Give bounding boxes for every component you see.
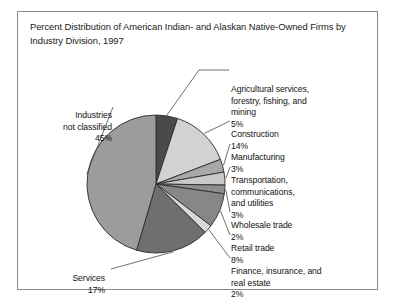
callout-unclassified-name: Industries not classified <box>63 110 112 131</box>
callout-wholesale-name: Wholesale trade <box>231 220 292 230</box>
callout-manufacturing-name: Manufacturing <box>231 152 285 162</box>
callout-retail-name: Retail trade <box>231 243 274 253</box>
callout-services-name: Services <box>72 273 105 283</box>
leader-retail <box>221 211 230 235</box>
leader-manufacturing <box>223 144 230 165</box>
callout-finance-value: 2% <box>231 289 379 300</box>
leader-services <box>111 252 174 269</box>
callout-finance-name: Finance, insurance, and real estate <box>231 266 322 287</box>
leader-wholesale <box>226 190 230 212</box>
callout-construction-name: Construction <box>231 129 279 139</box>
callout-finance: Finance, insurance, and real estate 2% <box>231 255 379 305</box>
leader-construction <box>204 121 230 133</box>
callout-agricultural-name: Agricultural services, forestry, fishing… <box>231 84 309 117</box>
leader-finance <box>209 230 230 258</box>
leader-transportation <box>226 167 230 178</box>
callout-services-value: 17% <box>20 285 105 296</box>
callout-unclassified-value: 45% <box>22 133 112 144</box>
callout-transportation-name: Transportation, communications, and util… <box>231 175 295 208</box>
callout-unclassified: Industries not classified 45% <box>22 99 112 156</box>
leader-agricultural <box>167 70 199 115</box>
figure-root: Percent Distribution of American Indian-… <box>0 0 394 305</box>
callout-services: Services 17% <box>20 262 105 305</box>
